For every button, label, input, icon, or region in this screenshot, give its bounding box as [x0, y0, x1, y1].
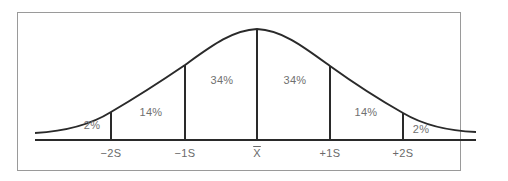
- axis-label-plus1s: +1S: [320, 147, 341, 159]
- axis-label-mean: X: [253, 147, 261, 159]
- axis-label-minus2s: −2S: [101, 147, 122, 159]
- region-label-left-14: 14%: [140, 106, 163, 118]
- region-label-left-tail: 2%: [84, 119, 101, 131]
- region-label-right-tail: 2%: [413, 123, 430, 135]
- region-label-right-34: 34%: [284, 74, 307, 86]
- axis-label-plus2s: +2S: [393, 147, 414, 159]
- bell-curve: [35, 29, 476, 133]
- region-label-left-34: 34%: [211, 74, 234, 86]
- axis-label-minus1s: −1S: [175, 147, 196, 159]
- region-label-right-14: 14%: [355, 106, 378, 118]
